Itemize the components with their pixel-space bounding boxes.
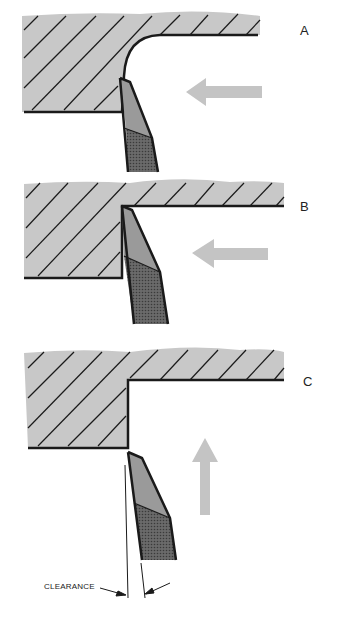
panel-c bbox=[24, 347, 284, 598]
clearance-label: CLEARANCE bbox=[44, 582, 95, 591]
cutting-tool-a bbox=[120, 78, 158, 172]
cutting-tool-b bbox=[122, 206, 168, 324]
panel-label-a: A bbox=[300, 23, 309, 38]
turning-tool-diagram bbox=[0, 0, 341, 619]
feed-arrow-left-b bbox=[192, 239, 268, 268]
panel-label-b: B bbox=[300, 199, 309, 214]
panel-b bbox=[24, 179, 284, 324]
cutting-tool-c bbox=[128, 452, 176, 560]
panel-label-c: C bbox=[303, 374, 312, 389]
feed-arrow-up-c bbox=[192, 438, 218, 515]
feed-arrow-left-a bbox=[186, 78, 262, 106]
panel-a bbox=[22, 11, 262, 172]
